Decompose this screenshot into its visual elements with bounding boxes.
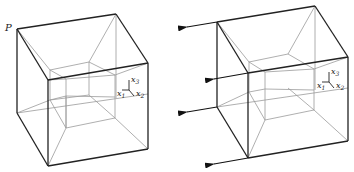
svg-text:x1: x1 bbox=[117, 89, 125, 99]
svg-text:x2: x2 bbox=[136, 89, 145, 99]
svg-text:x3: x3 bbox=[331, 67, 340, 77]
arrow-3 bbox=[187, 107, 217, 112]
svg-text:x3: x3 bbox=[131, 75, 140, 85]
tesseract-diagram: P x3 x1 x2 bbox=[0, 0, 354, 172]
svg-text:x1: x1 bbox=[317, 81, 325, 91]
svg-text:x2: x2 bbox=[336, 81, 345, 91]
arrow-2 bbox=[214, 73, 248, 79]
right-tesseract: x3 x1 x2 bbox=[187, 6, 348, 164]
left-axes-icon: x3 x1 x2 bbox=[117, 75, 145, 99]
vertex-label-p: P bbox=[4, 22, 12, 33]
left-tesseract: P x3 x1 x2 bbox=[4, 14, 148, 166]
right-axes-icon: x3 x1 x2 bbox=[317, 67, 345, 91]
arrow-1 bbox=[187, 22, 217, 27]
arrow-4 bbox=[214, 158, 248, 164]
